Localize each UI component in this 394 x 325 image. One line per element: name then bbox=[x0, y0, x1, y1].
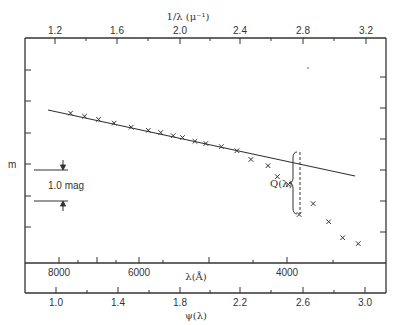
data-point-marker bbox=[326, 219, 331, 224]
right-axis-ticks bbox=[380, 77, 386, 232]
scale-bar-label: 1.0 mag bbox=[48, 180, 84, 191]
svg-text:2.0: 2.0 bbox=[173, 25, 187, 36]
psi-axis-tick-labels: 1.0 1.4 1.8 2.2 2.6 3.0 bbox=[49, 297, 372, 308]
plot-frame bbox=[25, 38, 386, 293]
data-points bbox=[68, 111, 360, 246]
svg-text:1.0: 1.0 bbox=[49, 297, 63, 308]
fit-line bbox=[48, 110, 355, 176]
svg-text:2.6: 2.6 bbox=[296, 297, 310, 308]
svg-text:8000: 8000 bbox=[48, 267, 71, 278]
left-axis-ticks bbox=[25, 70, 31, 227]
lambda-axis-tick-labels: 8000 6000 4000 bbox=[48, 267, 299, 278]
svg-text:3.2: 3.2 bbox=[359, 25, 373, 36]
data-point-marker bbox=[249, 157, 254, 162]
data-point-marker bbox=[340, 235, 345, 240]
chart-figure: 1.2 1.6 2.0 2.4 2.8 3.2 1/λ (μ⁻¹) m 1.0 … bbox=[0, 0, 394, 325]
svg-text:4000: 4000 bbox=[276, 267, 299, 278]
svg-text:6000: 6000 bbox=[128, 267, 151, 278]
svg-text:1.6: 1.6 bbox=[110, 25, 124, 36]
top-axis-tick-labels: 1.2 1.6 2.0 2.4 2.8 3.2 bbox=[48, 25, 373, 36]
svg-text:1.2: 1.2 bbox=[48, 25, 62, 36]
data-point-marker bbox=[297, 212, 302, 217]
svg-text:1.8: 1.8 bbox=[173, 297, 187, 308]
svg-text:3.0: 3.0 bbox=[358, 297, 372, 308]
stray-dot bbox=[307, 67, 309, 69]
top-axis-ticks bbox=[55, 38, 366, 44]
svg-text:2.8: 2.8 bbox=[296, 25, 310, 36]
svg-text:1.4: 1.4 bbox=[111, 297, 125, 308]
svg-text:2.4: 2.4 bbox=[233, 25, 247, 36]
psi-axis-ticks bbox=[56, 287, 365, 293]
psi-axis-label: ψ(λ) bbox=[185, 310, 207, 321]
lambda-axis-label: λ(Å) bbox=[185, 271, 206, 282]
data-point-marker bbox=[356, 241, 361, 246]
data-point-marker bbox=[311, 201, 316, 206]
data-point-marker bbox=[266, 163, 271, 168]
y-axis-label: m bbox=[8, 159, 16, 170]
lambda-axis-ticks bbox=[59, 257, 333, 263]
top-axis-label: 1/λ (μ⁻¹) bbox=[167, 11, 210, 22]
svg-text:2.2: 2.2 bbox=[233, 297, 247, 308]
